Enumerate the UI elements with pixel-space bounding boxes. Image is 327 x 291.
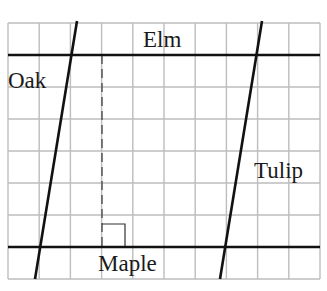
- street-grid-diagram: Elm Oak Tulip Maple: [0, 0, 327, 291]
- label-maple: Maple: [98, 251, 157, 276]
- label-tulip: Tulip: [254, 158, 303, 183]
- right-angle-marker: [102, 224, 125, 247]
- label-elm: Elm: [143, 27, 181, 52]
- label-oak: Oak: [8, 68, 47, 93]
